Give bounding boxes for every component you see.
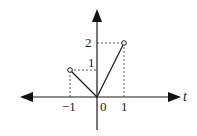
signal-diagram: t −1 0 1 1 2 bbox=[0, 0, 197, 136]
right-arrow-icon bbox=[168, 92, 181, 102]
t-axis-label: t bbox=[183, 89, 188, 104]
open-circle-point-1 bbox=[122, 41, 127, 46]
open-circle-point-neg1 bbox=[68, 68, 73, 73]
ytick-label-1: 1 bbox=[88, 55, 95, 70]
tick-label-neg1: −1 bbox=[62, 99, 76, 114]
tick-label-1: 1 bbox=[121, 99, 128, 114]
left-arrow-icon bbox=[20, 92, 33, 102]
ytick-label-2: 2 bbox=[85, 35, 92, 50]
up-arrow-icon bbox=[92, 9, 102, 22]
tick-label-0: 0 bbox=[100, 99, 107, 114]
